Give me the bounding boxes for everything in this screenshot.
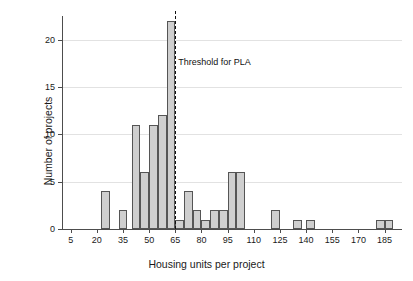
y-tick [58,229,62,230]
x-tick [149,229,150,233]
histogram-bar [293,220,302,229]
histogram-bar [101,191,110,229]
x-tick-label: 110 [247,235,261,245]
x-tick [201,229,202,233]
x-tick [71,229,72,233]
x-axis-title: Housing units per project [0,258,413,270]
histogram-bar [184,191,193,229]
x-tick-label: 140 [299,235,314,245]
x-tick [306,229,307,233]
histogram-bar [306,220,315,229]
x-tick [123,229,124,233]
histogram-bar [219,210,228,229]
gridline [63,40,402,41]
histogram-bar [376,220,385,229]
histogram-bar [167,21,176,229]
y-tick [58,182,62,183]
histogram-bar [271,210,280,229]
x-tick-label: 35 [118,235,128,245]
threshold-label: Threshold for PLA [178,57,251,67]
histogram-figure: Number of projects Housing units per pro… [0,0,413,281]
x-tick-label: 95 [223,235,233,245]
histogram-bar [210,210,219,229]
histogram-bar [175,220,184,229]
y-tick-label: 20 [45,35,55,45]
y-tick [58,134,62,135]
histogram-bar [201,220,210,229]
x-tick-label: 50 [144,235,154,245]
x-tick-label: 185 [377,235,392,245]
y-tick-label: 15 [45,82,55,92]
x-tick-label: 20 [92,235,102,245]
y-tick-label: 0 [50,224,55,234]
x-tick [358,229,359,233]
x-tick-label: 5 [68,235,73,245]
x-tick [280,229,281,233]
gridline [63,87,402,88]
gridline [63,134,402,135]
histogram-bar [385,220,394,229]
threshold-line [175,11,176,229]
x-tick [97,229,98,233]
y-tick-label: 5 [50,177,55,187]
y-axis-title: Number of projects [42,96,54,185]
histogram-bar [149,125,158,229]
y-axis-line [62,16,63,229]
histogram-bar [193,210,202,229]
y-tick-label: 10 [45,129,55,139]
x-tick [228,229,229,233]
x-tick-label: 125 [272,235,287,245]
x-tick [332,229,333,233]
histogram-bar [132,125,141,229]
x-tick [254,229,255,233]
x-tick-label: 155 [325,235,340,245]
histogram-bar [158,115,167,229]
histogram-bar [228,172,237,229]
x-tick [385,229,386,233]
histogram-bar [119,210,128,229]
y-tick [58,87,62,88]
x-axis-line [62,229,402,230]
plot-area: 05101520 5203550658095110125140155170185… [62,16,402,229]
histogram-bar [140,172,149,229]
x-tick-label: 65 [170,235,180,245]
x-tick-label: 80 [196,235,206,245]
x-tick [175,229,176,233]
x-tick-label: 170 [351,235,366,245]
histogram-bar [236,172,245,229]
y-tick [58,40,62,41]
